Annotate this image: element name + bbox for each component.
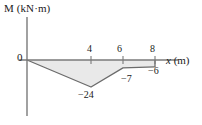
point-value-label-minus-7: −7 — [121, 74, 132, 84]
x-tick-label-4: 4 — [87, 44, 92, 54]
x-axis-label: x (m) — [166, 55, 190, 66]
origin-label: 0 — [17, 52, 23, 63]
point-value-label-minus-24: −24 — [78, 90, 94, 100]
point-value-label-minus-6: −6 — [148, 66, 159, 76]
x-tick-label-8: 8 — [150, 44, 155, 54]
x-tick-label-6: 6 — [117, 44, 122, 54]
x-axis-label-unit: (m) — [171, 54, 190, 66]
y-axis-label: M (kN·m) — [4, 3, 50, 14]
